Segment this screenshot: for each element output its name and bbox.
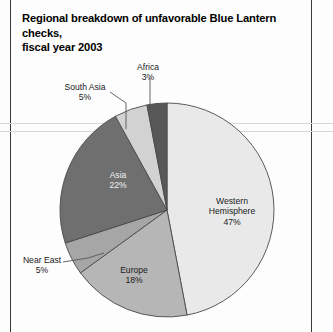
pie-label-western-hemisphere-name-2: Hemisphere: [196, 206, 268, 216]
pie-label-south-asia: South Asia 5%: [46, 82, 124, 103]
pie-label-western-hemisphere-name-1: Western: [196, 196, 268, 206]
pie-label-south-asia-value: 5%: [46, 92, 124, 102]
pie-label-africa-name: Africa: [117, 62, 179, 72]
pie-chart: Africa 3% South Asia 5% Asia 22% Near Ea…: [0, 0, 333, 332]
pie-label-western-hemisphere-value: 47%: [196, 217, 268, 227]
pie-label-europe-name: Europe: [104, 265, 164, 275]
pie-label-near-east-name: Near East: [6, 255, 78, 265]
pie-label-europe-value: 18%: [104, 275, 164, 285]
pie-label-africa: Africa 3%: [117, 62, 179, 83]
pie-label-asia: Asia 22%: [92, 170, 144, 191]
pie-label-south-asia-name: South Asia: [46, 82, 124, 92]
pie-label-asia-name: Asia: [92, 170, 144, 180]
pie-label-near-east-value: 5%: [6, 265, 78, 275]
pie-label-near-east: Near East 5%: [6, 255, 78, 276]
pie-label-asia-value: 22%: [92, 180, 144, 190]
pie-label-europe: Europe 18%: [104, 265, 164, 286]
pie-label-western-hemisphere: Western Hemisphere 47%: [196, 196, 268, 227]
pie-label-africa-value: 3%: [117, 72, 179, 82]
chart-page: Regional breakdown of unfavorable Blue L…: [0, 0, 333, 332]
pie-chart-svg: [0, 0, 333, 332]
